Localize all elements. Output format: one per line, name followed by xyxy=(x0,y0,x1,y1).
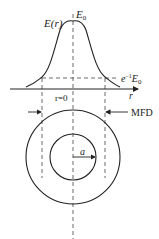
peak-label: E0 xyxy=(75,8,87,22)
axis-variable-label: r xyxy=(129,90,133,101)
mfd-label: MFD xyxy=(131,107,153,118)
threshold-label: e−1E0 xyxy=(121,73,142,86)
mfd-diagram: E(r) E0 e−1E0 r r=0 MFD a xyxy=(0,0,159,239)
origin-label: r=0 xyxy=(55,93,68,103)
field-profile-label: E(r) xyxy=(43,17,63,30)
core-radius-label: a xyxy=(80,146,85,157)
